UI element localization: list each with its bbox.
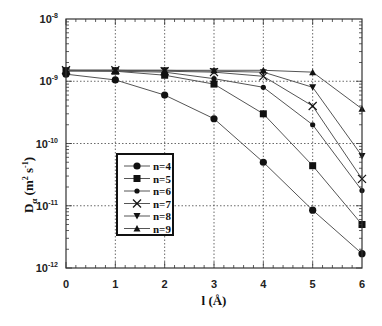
legend-label: n=4	[153, 160, 171, 172]
legend-label: n=9	[153, 223, 171, 235]
legend-label: n=8	[153, 210, 171, 222]
series-n5	[63, 68, 366, 228]
chart: 10-810-910-1010-1110-12 0123456 Dα (m2 s…	[0, 0, 382, 326]
x-axis-tick-labels: 0123456	[63, 278, 365, 290]
x-tick-label: 2	[162, 278, 168, 290]
x-tick-label: 3	[211, 278, 217, 290]
x-tick-label: 5	[310, 278, 316, 290]
y-tick-label: 10-12	[36, 261, 58, 274]
legend-label: n=6	[153, 185, 171, 197]
svg-text:Dα (m2 s-1): Dα (m2 s-1)	[21, 157, 39, 213]
legend-label: n=7	[153, 198, 171, 210]
data-series	[62, 66, 366, 257]
y-axis-title: Dα (m2 s-1)	[21, 157, 39, 213]
grid-lines	[66, 19, 362, 268]
y-tick-label: 10-9	[40, 74, 59, 87]
x-tick-label: 4	[260, 278, 267, 290]
legend-label: n=5	[153, 173, 171, 185]
y-tick-label: 10-8	[40, 12, 59, 25]
y-tick-label: 10-10	[36, 137, 58, 150]
x-tick-label: 0	[63, 278, 69, 290]
x-tick-label: 6	[359, 278, 365, 290]
x-axis-title: l (Å)	[202, 293, 227, 308]
legend: n=4n=5n=6n=7n=8n=9	[117, 154, 173, 235]
x-tick-label: 1	[112, 278, 118, 290]
y-tick-label: 10-11	[36, 199, 58, 212]
y-axis-tick-labels: 10-810-910-1010-1110-12	[36, 12, 58, 274]
